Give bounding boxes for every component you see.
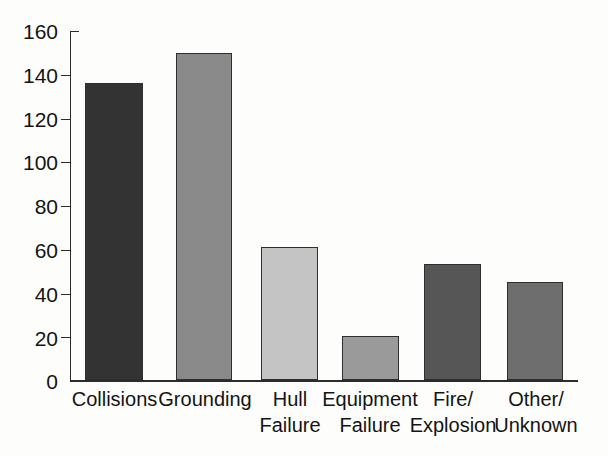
x-axis-line: [70, 380, 578, 382]
x-axis-label-other-unknown: Other/ Unknown: [477, 386, 595, 438]
y-axis-tick-labels: 160 140 120 100 80 60 40 20 0: [8, 0, 58, 456]
x-axis-label-line1: Fire/: [433, 388, 473, 410]
y-axis-tick-label: 40: [35, 284, 58, 305]
y-axis-tick-label: 120: [23, 109, 58, 130]
x-axis-label-line1: Collisions: [72, 388, 158, 410]
y-axis-tick-mark-140: [61, 75, 70, 76]
y-axis-tick-mark-60: [61, 250, 70, 251]
y-axis-tick-label: 60: [35, 240, 58, 261]
y-axis-tick-mark-20: [61, 337, 70, 338]
y-axis-tick-mark-80: [61, 206, 70, 207]
y-axis-tick-mark-0: [71, 380, 79, 381]
bar-fire-explosion: [424, 264, 481, 380]
y-axis-tick-mark-100: [61, 162, 70, 163]
bar-hull-failure: [261, 247, 318, 380]
y-axis-tick-label: 160: [23, 21, 58, 42]
y-axis-tick-label: 140: [23, 65, 58, 86]
y-axis-tick-mark-120: [61, 119, 70, 120]
x-axis-label-line1: Hull: [273, 388, 307, 410]
x-axis-label-line1: Other/: [508, 388, 564, 410]
y-axis-tick-label: 100: [23, 152, 58, 173]
bar-chart: 160 140 120 100 80 60 40 20 0 Collisions…: [0, 0, 608, 456]
y-axis-tick-label: 80: [35, 196, 58, 217]
x-axis-label-line2: Unknown: [477, 412, 595, 438]
x-axis-category-labels: Collisions Grounding Hull Failure Equipm…: [71, 386, 578, 456]
bar-grounding: [176, 53, 232, 380]
bar-equipment-failure: [342, 336, 399, 380]
bar-other-unknown: [507, 282, 563, 380]
plot-area: [71, 31, 578, 380]
bar-collisions: [85, 83, 143, 380]
y-axis-tick-mark-40: [61, 294, 70, 295]
y-axis-tick-label: 20: [35, 328, 58, 349]
